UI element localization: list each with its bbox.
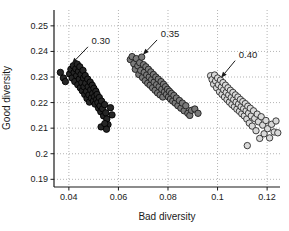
y-tick-label: 0.25 [30,21,48,31]
data-point [244,142,250,148]
data-point [107,105,113,111]
y-axis-label: Good diversity [1,66,12,130]
annotation-arrow-line [147,40,157,50]
scatter-points-layer [57,53,281,148]
x-tick-label: 0.06 [110,192,128,202]
annotation-label: 0.30 [92,35,111,46]
y-tick-label: 0.24 [30,46,48,56]
annotation-arrow-line [225,61,235,74]
data-point [266,135,272,141]
y-tick-label: 0.22 [30,98,48,108]
data-point [103,126,109,132]
x-tick-label: 0.1 [211,192,224,202]
data-point [195,110,201,116]
y-tick-label: 0.2 [35,149,48,159]
data-point [263,117,269,123]
annotation-layer: 0.300.350.40 [72,28,257,77]
x-tick-label: 0.08 [159,192,177,202]
x-axis-label: Bad diversity [138,211,195,222]
x-tick-label: 0.04 [60,192,78,202]
annotation-arrow-line [76,47,88,60]
scatter-chart: 0.040.060.080.10.120.190.20.210.220.230.… [0,0,289,231]
annotation-label: 0.40 [239,49,258,60]
data-point [103,110,109,116]
data-point [273,118,279,124]
data-point [275,130,281,136]
y-tick-label: 0.21 [30,123,48,133]
data-point [101,101,107,107]
series-0.30 [57,61,115,132]
x-tick-label: 0.12 [258,192,276,202]
y-tick-label: 0.23 [30,72,48,82]
series-0.40 [207,72,281,149]
scatter-figure: 0.040.060.080.10.120.190.20.210.220.230.… [0,0,289,231]
data-point [62,78,68,84]
data-point [183,103,189,109]
y-tick-label: 0.19 [30,174,48,184]
series-0.35 [127,53,201,118]
data-point [253,128,259,134]
annotation-label: 0.35 [161,28,180,39]
data-point [139,54,145,60]
data-point [109,112,115,118]
